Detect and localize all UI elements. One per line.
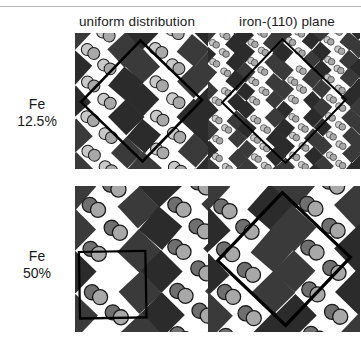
lattice-drawing [75,186,208,332]
row-label-fe-12-5-percent: 12.5% [0,113,74,130]
row-label-fe-50-percent: 50% [0,265,74,282]
top-divider-rule [0,6,361,7]
lattice-drawing [208,186,360,332]
panel-fe50-uniform-distribution [75,186,208,332]
row-label-fe-12-5-element: Fe [0,96,74,113]
column-header-iron-110-plane: iron-(110) plane [214,14,360,29]
row-label-fe-50: Fe 50% [0,248,74,281]
panel-fe50-iron-110-plane [208,186,360,332]
crystal-structure-figure: uniform distribution iron-(110) plane Fe… [0,0,361,355]
row-label-fe-50-element: Fe [0,248,74,265]
column-header-uniform-distribution: uniform distribution [62,14,212,29]
lattice-drawing [75,33,208,169]
lattice-drawing [208,33,360,169]
panel-fe12.5-iron-110-plane [208,33,360,169]
row-label-fe-12-5: Fe 12.5% [0,96,74,129]
panel-fe12.5-uniform-distribution [75,33,208,169]
